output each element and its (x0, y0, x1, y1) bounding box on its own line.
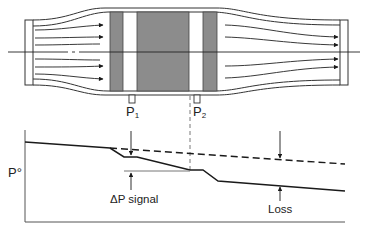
right-flange (340, 20, 348, 85)
p2-label: P2 (193, 105, 206, 120)
flow-arrow-icon (225, 25, 338, 37)
actual-pressure-curve (25, 142, 345, 191)
flow-arrow-icon (225, 67, 338, 78)
pressure-without-meter-curve (110, 148, 345, 164)
flow-arrow-icon (35, 74, 103, 79)
y-axis-label: P° (8, 166, 22, 179)
p1-label: P1 (126, 105, 139, 120)
flow-arrow-icon (225, 59, 338, 66)
flow-arrow-icon (35, 66, 103, 67)
flow-diagram (0, 0, 369, 234)
pressure-graph (25, 130, 345, 222)
p2-tap (194, 95, 200, 103)
p1-tap (129, 95, 135, 103)
flow-arrow-icon (35, 59, 100, 60)
left-flange (25, 20, 33, 85)
pipe-assembly (8, 8, 360, 103)
loss-label: Loss (268, 204, 292, 216)
delta-p-signal-label: ΔP signal (110, 194, 158, 206)
block-right (203, 12, 217, 91)
flow-arrow-icon (35, 44, 100, 45)
outlet-flow-arrows (225, 25, 338, 78)
flow-arrow-icon (35, 37, 103, 38)
block-left (110, 12, 123, 91)
flow-arrow-icon (225, 37, 338, 45)
block-center (137, 12, 189, 91)
